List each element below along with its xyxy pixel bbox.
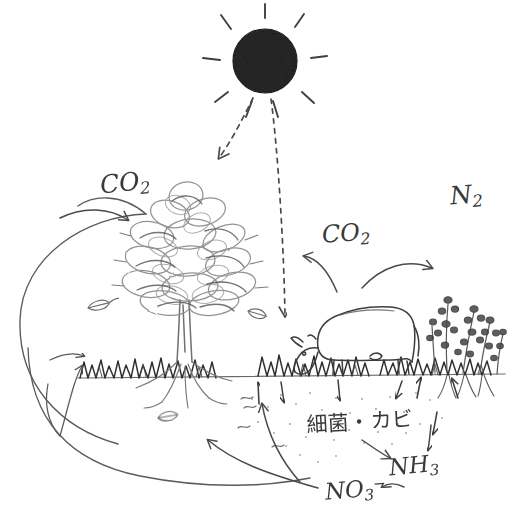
grass-line (78, 355, 505, 378)
ecosystem-sketch (0, 0, 527, 517)
label-no3: NO3− (324, 473, 388, 507)
arrow-legume-to-soil (433, 412, 437, 434)
arrow-co2-to-tree (60, 210, 128, 220)
arrows-litter-to-soil (281, 380, 402, 402)
sun-icon (203, 4, 327, 117)
label-microbes: 細菌・カビ (305, 402, 414, 438)
sunlight-arrow-ground (271, 99, 285, 316)
legume-plant (427, 297, 506, 398)
label-co2-left: CO2 (98, 165, 151, 202)
arrow-soil-to-grass (262, 404, 300, 482)
sunlight-arrow-tree (219, 98, 253, 158)
arrow-co2-to-legume (362, 264, 432, 288)
label-nh3: NH3 (388, 449, 441, 483)
label-co2-mid: CO2 (321, 217, 371, 251)
arrow-no3-to-roots (208, 440, 318, 488)
arrow-cow-to-co2 (304, 256, 337, 292)
arrow-microbes-to-nh3 (362, 440, 390, 458)
label-n2: N2 (449, 179, 484, 213)
diagram-canvas: CO2 CO2 N2 NH3 NO3− 細菌・カビ (0, 0, 527, 517)
arrows-uptake (258, 378, 458, 404)
